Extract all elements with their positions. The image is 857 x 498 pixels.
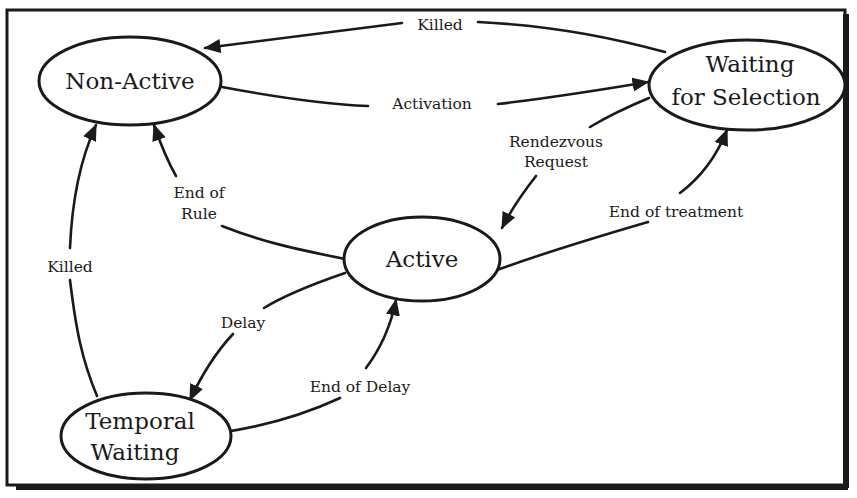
node-label-temporal-line1: Temporal: [85, 408, 195, 434]
edge-label-rendezvous-line1: Rendezvous: [509, 133, 603, 151]
node-active: Active: [344, 217, 500, 301]
edge-activation: Activation: [222, 82, 648, 113]
node-non-active: Non-Active: [39, 37, 221, 125]
edge-killed-left: Killed: [47, 125, 97, 396]
edge-label-killed-top: Killed: [417, 16, 463, 34]
edge-end-of-treatment: End of treatment: [497, 130, 744, 270]
node-label-temporal-line2: Waiting: [91, 439, 180, 465]
edge-label-delay: Delay: [221, 314, 266, 332]
edge-label-end-of-rule-line1: End of: [173, 184, 225, 202]
node-temporal-waiting: Temporal Waiting: [61, 393, 231, 479]
edge-label-rendezvous-line2: Request: [524, 153, 589, 171]
edge-label-killed-left: Killed: [47, 258, 93, 276]
edge-label-end-of-rule-line2: Rule: [181, 205, 217, 223]
node-label-active: Active: [385, 246, 459, 272]
state-diagram: Killed Activation Rendezvous Request End…: [0, 0, 857, 498]
edge-label-activation: Activation: [391, 95, 472, 113]
node-label-non-active: Non-Active: [65, 68, 194, 94]
node-label-waiting-line1: Waiting: [706, 51, 795, 77]
node-waiting-for-selection: Waiting for Selection: [649, 40, 845, 130]
edge-label-end-of-treatment: End of treatment: [609, 203, 744, 221]
edge-killed-top: Killed: [205, 16, 665, 52]
edge-end-of-rule: End of Rule: [154, 125, 345, 259]
node-label-waiting-line2: for Selection: [671, 84, 820, 110]
edge-label-end-of-delay: End of Delay: [310, 378, 411, 396]
